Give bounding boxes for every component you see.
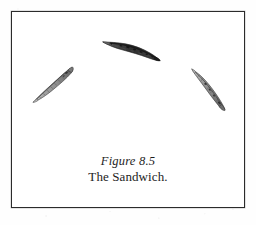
figure-page: Figure 8.5 The Sandwich.	[0, 0, 256, 225]
specimen-right	[183, 64, 235, 114]
figure-plate-interior: Figure 8.5 The Sandwich.	[12, 12, 244, 207]
specimen-top-center	[98, 33, 163, 69]
figure-caption: Figure 8.5 The Sandwich.	[12, 154, 244, 185]
figure-number-label: Figure 8.5	[12, 154, 244, 169]
specimen-left	[25, 63, 80, 108]
figure-plate-border: Figure 8.5 The Sandwich.	[11, 11, 245, 208]
figure-title-label: The Sandwich.	[12, 169, 244, 185]
